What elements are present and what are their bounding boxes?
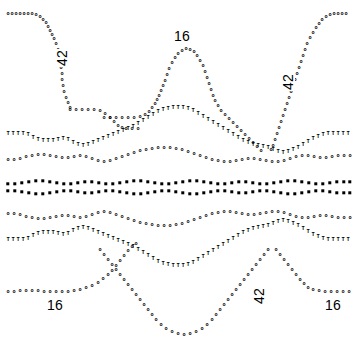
contour-label-16: 16 — [46, 298, 64, 312]
contour-label-42: 42 — [252, 287, 266, 305]
contour-label-16: 16 — [324, 298, 342, 312]
contour-label-42: 42 — [55, 49, 69, 67]
contour-label-16: 16 — [173, 29, 191, 43]
contour-label-42: 42 — [281, 73, 295, 91]
contour-plot: oooooooooooooooooooooooooooooooooooooooo… — [0, 0, 355, 357]
contour-label-layer: 421642164216 — [0, 0, 355, 357]
